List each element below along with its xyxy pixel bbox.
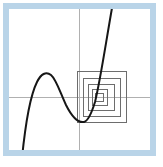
figure-container bbox=[0, 0, 163, 167]
graph-figure bbox=[0, 0, 163, 167]
